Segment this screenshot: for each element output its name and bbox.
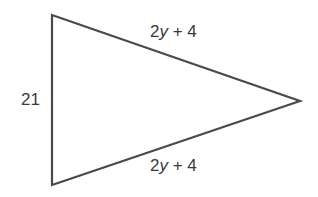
- left-side-label: 21: [21, 90, 40, 110]
- top-side-label: 2y + 4: [150, 22, 197, 42]
- triangle-diagram: 2y + 4 21 2y + 4: [0, 0, 318, 197]
- bottom-side-label: 2y + 4: [150, 156, 197, 176]
